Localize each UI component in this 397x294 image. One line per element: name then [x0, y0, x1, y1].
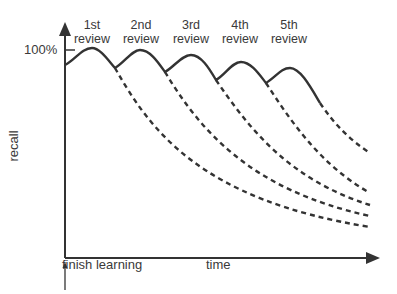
dashed-curve-3	[216, 80, 370, 205]
x-axis-arrow-icon	[366, 252, 380, 264]
review-label-5: 5th review	[264, 18, 314, 46]
y-axis-label: recall	[7, 130, 21, 161]
review-label-4: 4th review	[215, 18, 265, 46]
x-axis-label: time	[206, 258, 231, 272]
dashed-curve-6	[65, 65, 370, 235]
dashed-forgetting-curves	[65, 65, 370, 235]
review-label-1: 1st review	[67, 18, 117, 46]
review-label-2: 2nd review	[116, 18, 166, 46]
review-label-3: 3rd review	[166, 18, 216, 46]
axes	[65, 34, 368, 258]
solid-recall-curve	[65, 48, 320, 103]
dashed-curve-5	[320, 103, 370, 153]
dashed-curve-1	[115, 68, 370, 227]
finish-learning-label: finish learning	[62, 258, 142, 272]
y-tick-label: 100%	[24, 43, 57, 57]
